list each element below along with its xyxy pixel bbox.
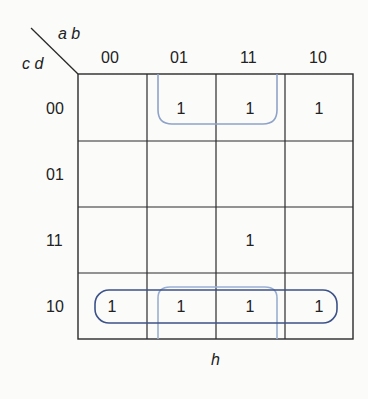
column-header-00: 00: [101, 50, 119, 66]
column-header-11: 11: [240, 50, 257, 66]
row-variable-label: c d: [22, 56, 43, 72]
row-header-01: 01: [46, 167, 64, 183]
column-header-01: 01: [170, 50, 188, 66]
row-header-00: 00: [46, 101, 64, 117]
cell-r0-c1: 1: [171, 101, 191, 117]
cell-r0-c3: 1: [309, 101, 329, 117]
cell-r3-c0: 1: [102, 299, 122, 315]
cell-r3-c1: 1: [171, 299, 191, 315]
row-header-10: 10: [46, 299, 64, 315]
column-header-10: 10: [309, 50, 327, 66]
row-header-11: 11: [46, 233, 63, 249]
cell-r2-c2: 1: [240, 233, 260, 249]
cell-r3-c3: 1: [309, 299, 329, 315]
column-variable-label: a b: [58, 26, 80, 42]
cell-r3-c2: 1: [240, 299, 260, 315]
map-caption: h: [211, 352, 220, 368]
cell-r0-c2: 1: [240, 101, 260, 117]
